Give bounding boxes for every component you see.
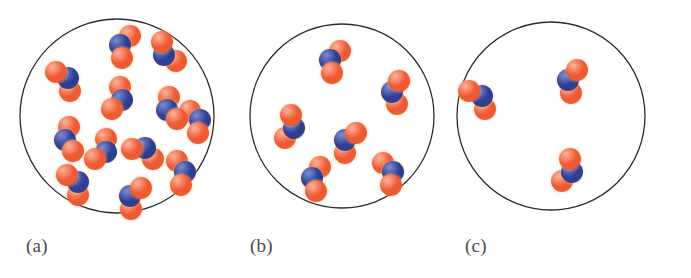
oxygen-atom bbox=[130, 177, 152, 199]
oxygen-atom bbox=[101, 98, 123, 120]
oxygen-atom bbox=[388, 70, 410, 92]
oxygen-atom bbox=[84, 148, 106, 170]
panel-label-c: (c) bbox=[465, 235, 487, 257]
oxygen-atom bbox=[151, 31, 173, 53]
oxygen-atom bbox=[56, 164, 78, 186]
oxygen-atom bbox=[170, 174, 192, 196]
oxygen-atom bbox=[121, 138, 143, 160]
oxygen-atom bbox=[166, 108, 188, 130]
oxygen-atom bbox=[559, 148, 581, 170]
oxygen-atom bbox=[305, 180, 327, 202]
oxygen-atom bbox=[45, 61, 67, 83]
oxygen-atom bbox=[62, 140, 84, 162]
oxygen-atom bbox=[280, 104, 302, 126]
molecular-concentration-figure: (a)(b)(c) bbox=[0, 0, 691, 278]
